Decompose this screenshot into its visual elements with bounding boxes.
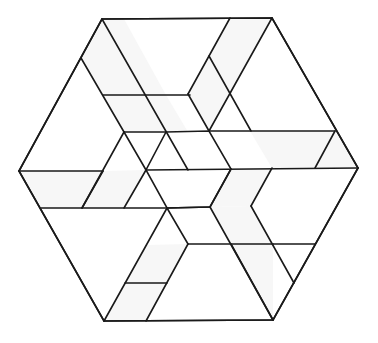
shaded-region [103,95,188,132]
shaded-region [210,168,272,207]
edge-line [167,208,188,244]
diagram-lines [19,18,358,321]
edge-line [167,207,210,208]
hexagon-tiling-diagram [0,0,378,343]
diagram-svg [0,0,378,343]
shaded-region [250,131,358,168]
edge-line [146,168,358,170]
shaded-region [125,244,188,283]
edge-line [124,132,146,170]
shaded-region [104,283,167,321]
